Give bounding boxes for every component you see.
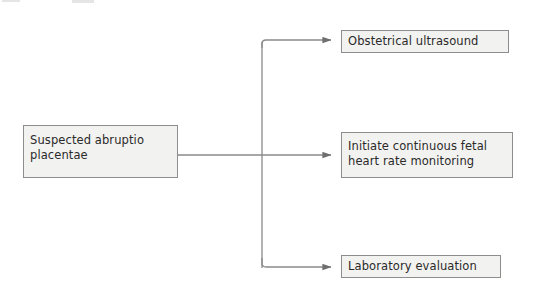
- node-suspected-abruptio-placentae[interactable]: Suspected abruptio placentae: [23, 125, 178, 178]
- node-laboratory-evaluation[interactable]: Laboratory evaluation: [341, 255, 501, 278]
- node-obstetrical-ultrasound[interactable]: Obstetrical ultrasound: [341, 30, 509, 53]
- flowchart-canvas: Suspected abruptio placentae Obstetrical…: [0, 0, 539, 300]
- node-initiate-continuous-fetal-heart-rate-monitoring[interactable]: Initiate continuous fetal heart rate mon…: [341, 132, 513, 178]
- edge-source-to-lab: [262, 258, 331, 267]
- edge-source-to-ultrasound: [262, 40, 331, 48]
